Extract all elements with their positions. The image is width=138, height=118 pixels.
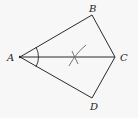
- segment-da: [20, 57, 92, 98]
- vertex-a-dot: [19, 56, 21, 58]
- label-a: A: [6, 52, 14, 63]
- label-d: D: [89, 101, 98, 112]
- segment-bc: [92, 15, 115, 57]
- geometry-diagram: A B C D: [0, 0, 138, 118]
- quadrilateral-figure: A B C D: [0, 0, 138, 118]
- segment-ab: [20, 15, 92, 57]
- label-c: C: [120, 52, 128, 63]
- segment-cd: [92, 57, 115, 98]
- label-b: B: [88, 3, 96, 14]
- construction-arcs: [69, 45, 86, 66]
